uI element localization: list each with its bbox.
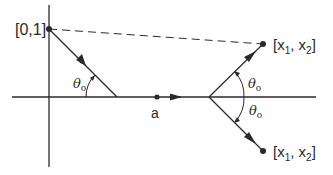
axis-arrowhead-icon xyxy=(170,94,182,101)
lower-angle-label: θo xyxy=(249,103,262,120)
upper-target-label: [x1, x2] xyxy=(273,36,316,56)
lower-arc-arrowhead-icon xyxy=(234,117,240,123)
upper-angle-label: θo xyxy=(248,76,261,93)
source-point xyxy=(46,26,52,32)
lower-target-point xyxy=(260,148,266,154)
incident-arrowhead-icon xyxy=(76,54,86,66)
reflection-diagram: [0,1] a [x1, x2] [x1, x2] θo θo θo xyxy=(0,0,333,175)
lower-angle-arc xyxy=(235,97,244,122)
point-a-label: a xyxy=(151,105,159,121)
incident-angle-label: θo xyxy=(73,76,86,93)
dashed-connector xyxy=(49,29,263,44)
upper-target-point xyxy=(260,41,266,47)
upper-arc-arrowhead-icon xyxy=(234,71,240,77)
lower-target-label: [x1, x2] xyxy=(273,143,316,163)
upper-angle-arc xyxy=(235,72,244,97)
source-label: [0,1] xyxy=(15,21,46,38)
point-a xyxy=(154,94,159,99)
